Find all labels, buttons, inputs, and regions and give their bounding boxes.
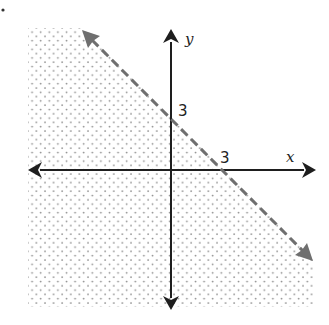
y-axis-label: y	[184, 30, 194, 48]
y-axis-up-arrow-icon	[163, 29, 179, 43]
x-intercept-label: 3	[220, 149, 230, 167]
y-intercept-label: 3	[178, 102, 188, 120]
x-axis-right-arrow-icon	[302, 162, 316, 178]
x-axis-label: x	[286, 148, 295, 166]
inequality-graph: y x 3 3	[0, 0, 329, 325]
bullet-dot	[1, 8, 4, 11]
